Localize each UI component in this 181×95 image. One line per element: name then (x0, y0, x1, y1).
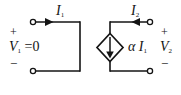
terminal-bottom-right (147, 68, 152, 73)
label-current-i1: I1 (56, 4, 64, 18)
label-i1-subscript: 1 (61, 11, 65, 19)
label-v2-symbol: V (160, 39, 169, 54)
label-v2-subscript: 2 (169, 47, 173, 55)
label-v1-value: =0 (21, 39, 39, 54)
polarity-plus-right: + (161, 26, 168, 38)
label-i1-symbol: I (56, 3, 61, 18)
terminal-bottom-left (30, 68, 35, 73)
label-dependent-source-value: α I1 (128, 40, 147, 54)
terminal-top-right (147, 19, 152, 24)
label-voltage-v2: V2 (160, 40, 172, 54)
polarity-plus-left: + (10, 26, 17, 38)
polarity-minus-right: − (161, 57, 168, 70)
label-i2-subscript: 2 (136, 11, 140, 19)
label-alpha-current-subscript: 1 (144, 47, 148, 55)
label-v1-subscript: 1 (18, 47, 22, 55)
circuit-diagram: I1 I2 V1 =0 V2 α I1 + − + − (0, 0, 181, 95)
label-i2-symbol: I (131, 3, 136, 18)
polarity-minus-left: − (10, 57, 17, 70)
label-voltage-v1: V1 =0 (9, 40, 39, 54)
current-arrow-i1 (45, 18, 54, 26)
label-alpha-symbol: α (128, 39, 135, 54)
label-v1-symbol: V (9, 39, 18, 54)
label-current-i2: I2 (131, 4, 139, 18)
current-arrow-i2 (132, 18, 141, 26)
label-alpha-current-symbol: I (139, 39, 144, 54)
terminal-top-left (30, 19, 35, 24)
